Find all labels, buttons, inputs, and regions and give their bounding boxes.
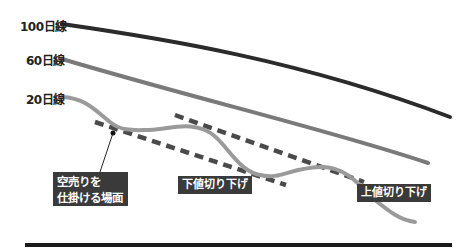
diagram-canvas: 100日線 60日線 20日線 空売りを 仕掛ける場面 下値切り下げ 上値切り下…: [0, 0, 476, 252]
ma100-label: 100日線: [20, 17, 67, 34]
ma20-label: 20日線: [26, 90, 65, 107]
entry-point-marker: [111, 131, 116, 136]
ma60-label: 60日線: [26, 51, 65, 68]
short-entry-line2: 仕掛ける場面: [57, 190, 128, 206]
short-entry-line1: 空売りを: [57, 174, 128, 190]
upper-trend-annotation: 上値切り下げ: [357, 184, 431, 202]
upper-trendline: [175, 115, 364, 182]
lower-trend-annotation: 下値切り下げ: [178, 176, 252, 194]
entry-pointer: [100, 133, 113, 172]
ma100-line: [62, 24, 450, 117]
chart-lines: [0, 0, 476, 252]
short-entry-annotation: 空売りを 仕掛ける場面: [53, 172, 128, 206]
ma60-line: [62, 59, 428, 163]
